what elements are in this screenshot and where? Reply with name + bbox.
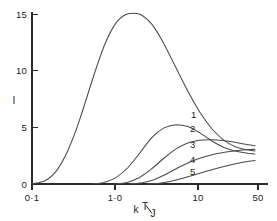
curve-label-4: 4 — [190, 154, 195, 165]
curve-2 — [92, 125, 255, 184]
line-chart: 0 5 10 15 0·1 1·0 10 50 I k T J 1 2 3 4 … — [0, 0, 277, 221]
curve-label-3: 3 — [190, 139, 195, 150]
x-axis-title-denominator: J — [151, 208, 156, 219]
x-tick-label-50: 50 — [253, 192, 264, 203]
y-tick-label-15: 15 — [16, 9, 27, 20]
curve-label-1: 1 — [191, 109, 196, 120]
x-axis-title-prefix: k — [134, 204, 140, 215]
y-tick-label-5: 5 — [22, 122, 27, 133]
x-tick-label-0.1: 0·1 — [25, 192, 39, 203]
x-tick-label-10: 10 — [193, 192, 204, 203]
curve-5 — [147, 160, 255, 184]
curve-label-5: 5 — [190, 166, 195, 177]
y-tick-label-0: 0 — [22, 179, 27, 190]
y-axis-title: I — [13, 95, 16, 106]
x-axis-title: k T J — [134, 201, 156, 219]
x-tick-label-1.0: 1·0 — [108, 192, 122, 203]
y-tick-label-10: 10 — [16, 65, 27, 76]
curve-1 — [32, 13, 255, 183]
figure-container: 0 5 10 15 0·1 1·0 10 50 I k T J 1 2 3 4 … — [0, 0, 277, 221]
curve-label-2: 2 — [190, 123, 195, 134]
